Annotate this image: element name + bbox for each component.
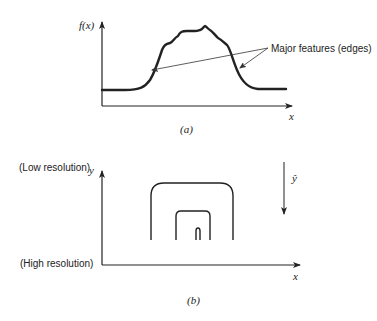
inner-contour <box>196 228 200 240</box>
panel-b-caption: (b) <box>187 294 200 306</box>
panel-a-caption: (a) <box>180 123 193 135</box>
panel-b-y-axis-label: y <box>89 164 94 176</box>
panel-a-axes <box>102 22 292 106</box>
low-resolution-label: (Low resolution) <box>19 162 90 173</box>
panel-b-axes <box>102 171 300 265</box>
panel-a-x-axis-label: x <box>289 110 294 122</box>
high-resolution-label: (High resolution) <box>20 258 93 269</box>
panel-b-x-axis-label: x <box>293 270 298 282</box>
edge-annotation-label: Major features (edges) <box>271 43 372 54</box>
middle-contour <box>176 211 210 240</box>
scale-space-contours <box>151 183 233 240</box>
panel-a-y-axis-label: f(x) <box>79 19 94 31</box>
edge-annotation-arrows <box>152 48 268 70</box>
direction-label: ŷ <box>292 172 297 184</box>
signal-curve <box>102 26 286 90</box>
